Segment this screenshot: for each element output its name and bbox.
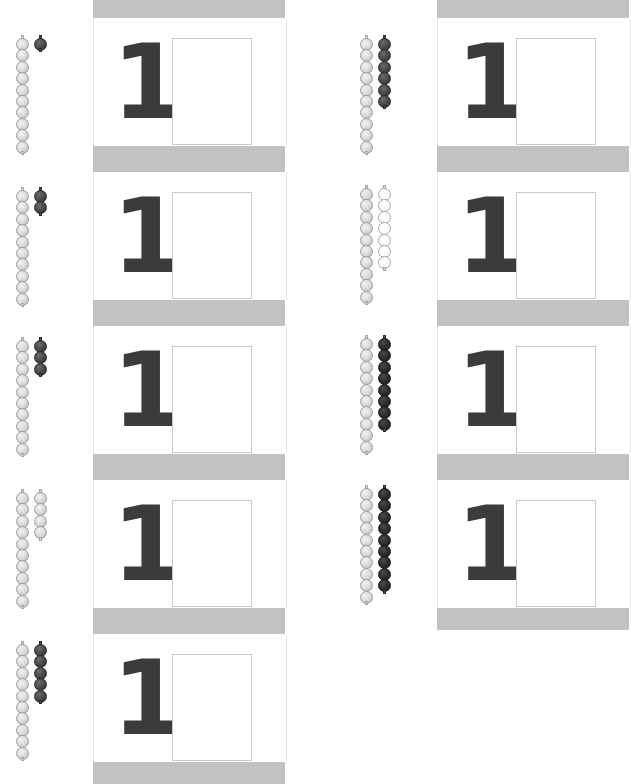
bead <box>34 526 47 539</box>
separator-band <box>93 454 285 480</box>
bead <box>378 579 391 592</box>
answer-box[interactable] <box>516 38 596 145</box>
card-column-right: 1111 <box>437 0 629 784</box>
separator-band <box>93 608 285 634</box>
tracing-card: 1 <box>93 480 287 608</box>
answer-box[interactable] <box>172 346 252 453</box>
bead <box>360 291 373 304</box>
bead-chain-ten <box>360 188 373 302</box>
separator-band <box>437 608 629 630</box>
separator-band <box>437 0 629 18</box>
bead-chain-ones <box>34 190 47 213</box>
separator-band <box>93 300 285 326</box>
answer-box[interactable] <box>172 654 252 761</box>
bead <box>16 293 29 306</box>
tracing-card: 1 <box>437 18 631 146</box>
bead-chain-ones <box>378 188 391 268</box>
tracing-card: 1 <box>93 326 287 454</box>
answer-box[interactable] <box>172 38 252 145</box>
bead <box>34 690 47 703</box>
bead-chain-ten <box>360 38 373 152</box>
bead-chain-ones <box>34 492 47 538</box>
bead <box>16 141 29 154</box>
answer-box[interactable] <box>516 346 596 453</box>
bead <box>34 201 47 214</box>
bead-chain-ten <box>16 644 29 758</box>
answer-box[interactable] <box>172 192 252 299</box>
bead-chain-ten <box>16 190 29 304</box>
answer-box[interactable] <box>516 500 596 607</box>
bead-chain-ten <box>16 492 29 606</box>
bead <box>360 141 373 154</box>
bead-chain-ones <box>34 644 47 701</box>
bead <box>16 443 29 456</box>
bead-chain-ten <box>360 488 373 602</box>
separator-band <box>93 0 285 18</box>
bead-chain-ones <box>378 38 391 106</box>
bead <box>360 441 373 454</box>
tracing-card: 1 <box>437 480 631 608</box>
separator-band <box>437 146 629 172</box>
bead-chain-ten <box>16 38 29 152</box>
separator-band <box>93 146 285 172</box>
bead-chain-ones <box>378 338 391 429</box>
bead <box>16 747 29 760</box>
separator-band <box>437 454 629 480</box>
bead-chain-ones <box>34 38 47 49</box>
answer-box[interactable] <box>516 192 596 299</box>
answer-box[interactable] <box>172 500 252 607</box>
bead-chain-ones <box>34 340 47 374</box>
separator-band <box>437 300 629 326</box>
tracing-card: 1 <box>93 18 287 146</box>
bead-chain-ten <box>360 338 373 452</box>
tracing-card: 1 <box>93 172 287 300</box>
bead <box>34 38 47 51</box>
tracing-card: 1 <box>437 172 631 300</box>
bead <box>34 363 47 376</box>
bead <box>378 418 391 431</box>
bead <box>360 591 373 604</box>
bead <box>16 595 29 608</box>
tracing-card: 1 <box>437 326 631 454</box>
separator-band <box>93 762 285 784</box>
bead-chain-ten <box>16 340 29 454</box>
tracing-card: 1 <box>93 634 287 762</box>
bead <box>378 95 391 108</box>
bead <box>378 256 391 269</box>
bead-chain-ones <box>378 488 391 591</box>
card-column-left: 11111 <box>93 0 285 784</box>
